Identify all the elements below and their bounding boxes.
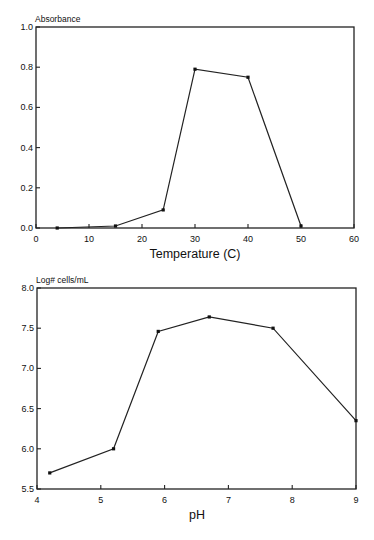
y-tick-label: 0.6 [20, 102, 33, 112]
data-point-marker [162, 208, 165, 211]
x-tick-label: 40 [243, 234, 253, 244]
x-tick-label: 7 [226, 495, 231, 505]
data-point-marker [112, 447, 115, 450]
data-point-marker [299, 224, 302, 227]
y-axis-label: Absorbance [35, 14, 81, 24]
data-point-marker [208, 315, 211, 318]
plot-frame [37, 288, 356, 489]
x-tick-label: 30 [190, 234, 200, 244]
data-point-marker [354, 419, 357, 422]
ph-cell-count-chart: 5.56.06.57.07.58.0456789Log# cells/mLpH [21, 275, 358, 522]
y-tick-label: 0.2 [20, 183, 33, 193]
data-series-line [57, 69, 301, 228]
x-tick-label: 60 [349, 234, 359, 244]
x-tick-label: 9 [353, 495, 358, 505]
temperature-absorbance-chart: 0.00.20.40.60.81.00102030405060Absorbanc… [20, 14, 359, 261]
data-series-line [50, 317, 356, 473]
y-tick-label: 7.0 [21, 363, 34, 373]
x-tick-label: 6 [162, 495, 167, 505]
data-point-marker [48, 471, 51, 474]
data-point-marker [193, 68, 196, 71]
x-tick-label: 20 [137, 234, 147, 244]
y-tick-label: 7.5 [21, 323, 34, 333]
y-tick-label: 5.5 [21, 484, 34, 494]
charts-figure: 0.00.20.40.60.81.00102030405060Absorbanc… [0, 0, 374, 540]
y-tick-label: 0.0 [20, 223, 33, 233]
x-tick-label: 50 [296, 234, 306, 244]
plot-frame [36, 27, 354, 228]
data-point-marker [271, 327, 274, 330]
data-point-marker [114, 224, 117, 227]
y-tick-label: 6.0 [21, 444, 34, 454]
y-tick-label: 6.5 [21, 404, 34, 414]
data-point-marker [157, 330, 160, 333]
x-tick-label: 8 [290, 495, 295, 505]
x-axis-label: Temperature (C) [150, 247, 241, 261]
x-tick-label: 0 [33, 234, 38, 244]
x-tick-label: 4 [34, 495, 39, 505]
data-point-marker [56, 226, 59, 229]
y-tick-label: 1.0 [20, 22, 33, 32]
x-tick-label: 10 [84, 234, 94, 244]
y-tick-label: 8.0 [21, 283, 34, 293]
y-tick-label: 0.8 [20, 62, 33, 72]
data-point-marker [246, 76, 249, 79]
y-axis-label: Log# cells/mL [36, 275, 89, 285]
y-tick-label: 0.4 [20, 143, 33, 153]
x-axis-label: pH [189, 508, 205, 522]
x-tick-label: 5 [98, 495, 103, 505]
